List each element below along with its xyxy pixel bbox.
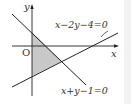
page-edge-strip [124, 0, 131, 104]
origin-label: O [22, 48, 30, 58]
y-axis-label: y [24, 2, 30, 12]
y-axis-arrow-icon [30, 4, 33, 9]
label-leader-line [101, 31, 108, 37]
equation-label-2: x+y−1=0 [61, 86, 108, 96]
equation-label-1: x−2y−4=0 [55, 20, 108, 30]
line-x-minus-2y-minus-4 [12, 33, 118, 87]
x-axis-label: x [111, 49, 117, 59]
